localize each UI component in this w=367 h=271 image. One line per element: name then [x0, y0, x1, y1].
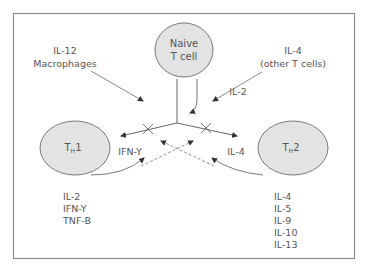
th2-feedback-arrow: [212, 158, 263, 175]
input-right-line2: (other T cells): [260, 58, 326, 69]
svg-text:IL-9: IL-9: [274, 215, 291, 226]
th2-cytokine-list: IL-4 IL-5 IL-9 IL-10 IL-13: [274, 191, 297, 250]
naive-label-2: T cell: [170, 51, 198, 62]
naive-t-cell-node: Naive T cell: [155, 23, 213, 77]
il4-feedback-label: IL-4: [227, 146, 244, 157]
th2-cell-node: TH2: [258, 121, 328, 175]
svg-text:IL-10: IL-10: [274, 227, 297, 238]
th1-cytokine-list: IL-2 IFN-Y TNF-B: [62, 191, 91, 226]
svg-text:IL-4: IL-4: [274, 191, 291, 202]
input-left-line1: IL-12: [53, 45, 76, 56]
th1-th2-diagram: Naive T cell TH1 TH2 IL-12 Macrophages I…: [0, 0, 367, 271]
input-left-line2: Macrophages: [33, 58, 96, 69]
naive-label-1: Naive: [170, 38, 198, 49]
il2-curved-arrow: [190, 79, 197, 113]
svg-text:IL-5: IL-5: [274, 203, 291, 214]
ifn-y-feedback-label: IFN-Y: [118, 146, 142, 157]
th1-cell-node: TH1: [40, 121, 110, 175]
svg-text:IFN-Y: IFN-Y: [63, 203, 87, 214]
dashed-arrow-th2-inhibits: [161, 141, 214, 166]
il2-label: IL-2: [229, 86, 246, 97]
svg-text:TNF-B: TNF-B: [62, 215, 91, 226]
svg-text:IL-13: IL-13: [274, 239, 297, 250]
svg-text:IL-2: IL-2: [63, 191, 80, 202]
input-right-line1: IL-4: [284, 45, 301, 56]
dashed-arrow-th1-inhibits: [141, 141, 193, 166]
inhibition-cross-right: [201, 123, 211, 133]
il12-arrow: [91, 71, 143, 101]
